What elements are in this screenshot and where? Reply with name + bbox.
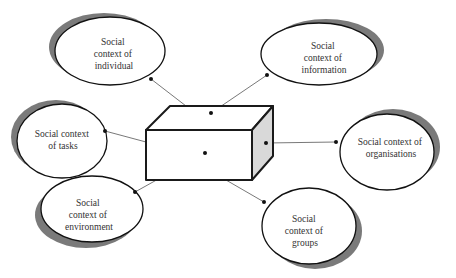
label-line: context of [69, 210, 108, 220]
edge-individual [151, 79, 186, 106]
label-line: Social context [35, 129, 89, 139]
node-information: Social context of information [261, 19, 384, 85]
label-line: Social [292, 214, 316, 224]
edge-tasks [105, 131, 146, 142]
label-line: Social [101, 37, 125, 47]
node-tasks: Social context of tasks [11, 100, 107, 178]
label-line: Social context of [358, 137, 423, 147]
label-line: environment [65, 222, 113, 232]
label-line: individual [95, 61, 134, 71]
dot-tasks [103, 129, 107, 133]
label-line: context of [94, 49, 133, 59]
dot-environment [133, 190, 137, 194]
box-front-face [146, 130, 252, 180]
node-environment-ellipse [41, 176, 143, 242]
label-line: Social [311, 41, 335, 51]
dot-box-top [209, 111, 213, 115]
edge-groups [226, 180, 264, 202]
label-line: information [302, 65, 347, 75]
label-line: groups [292, 238, 318, 248]
node-groups: Social context of groups [262, 188, 362, 269]
dot-box-front [203, 151, 207, 155]
edge-organisations [266, 142, 336, 143]
dot-groups [262, 200, 266, 204]
label-line: Social [76, 198, 100, 208]
label-line: of tasks [48, 141, 78, 151]
label-line: context of [304, 53, 343, 63]
dot-information [265, 73, 269, 77]
node-environment: Social context of environment [35, 176, 143, 248]
label-line: organisations [366, 149, 417, 159]
label-line: context of [285, 226, 324, 236]
dot-individual [149, 77, 153, 81]
social-context-diagram: Social context of individual Social cont… [0, 0, 456, 278]
dot-box-side [264, 141, 268, 145]
node-individual: Social context of individual [49, 13, 165, 85]
node-organisations: Social context of organisations [334, 109, 440, 190]
center-box [146, 106, 273, 180]
dot-organisations [334, 140, 338, 144]
diagram-canvas: Social context of individual Social cont… [0, 0, 456, 278]
